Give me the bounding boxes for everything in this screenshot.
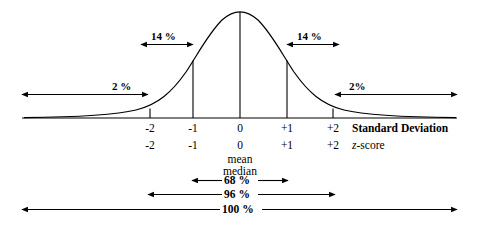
tick-z-plus-1: +1 — [275, 140, 299, 152]
label-14-percent-right: 14 % — [297, 31, 322, 42]
tick-sd-minus-2: -2 — [138, 123, 162, 135]
normal-distribution-diagram: 14 % 14 % 2 % 2% -2 -1 0 +1 +2 Standard … — [0, 0, 479, 226]
axis-label-z-score: z-score — [352, 140, 385, 152]
axis-label-standard-deviation: Standard Deviation — [352, 123, 448, 135]
tick-sd-minus-1: -1 — [181, 123, 205, 135]
tick-z-minus-1: -1 — [181, 140, 205, 152]
label-2-percent-left-tail: 2 % — [112, 81, 131, 92]
tick-z-plus-2: +2 — [321, 140, 345, 152]
label-range-68: 68 % — [224, 175, 250, 187]
label-mean: mean — [212, 154, 268, 166]
label-14-percent-left: 14 % — [151, 31, 176, 42]
axis-label-z-suffix: -score — [356, 139, 384, 151]
tick-z-zero: 0 — [228, 140, 252, 152]
tick-sd-zero: 0 — [228, 123, 252, 135]
tick-sd-plus-1: +1 — [275, 123, 299, 135]
tick-sd-plus-2: +2 — [321, 123, 345, 135]
tick-z-minus-2: -2 — [138, 140, 162, 152]
label-2-percent-right-tail: 2% — [349, 81, 366, 92]
label-range-100: 100 % — [222, 204, 254, 216]
label-range-96: 96 % — [224, 189, 250, 201]
